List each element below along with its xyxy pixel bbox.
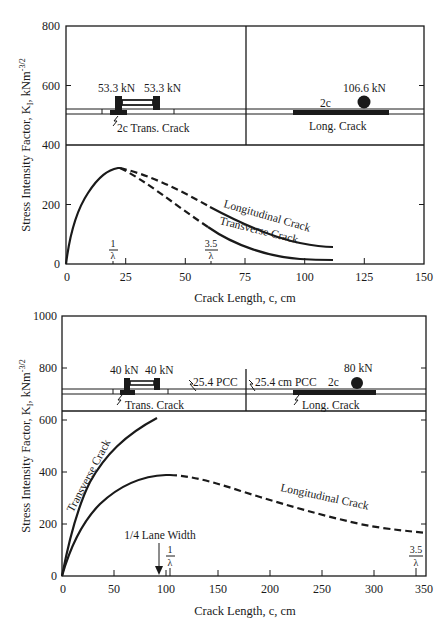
svg-text:λ: λ [209,250,214,261]
top-ytick-600: 600 [42,79,60,93]
bottom-x-axis-label: Crack Length, c, cm [194,604,296,618]
top-longitudinal-dashed [120,168,210,207]
svg-text:1: 1 [168,544,173,555]
bottom-xtick-150: 150 [209,582,227,596]
crack-2c-label: 2c [320,97,331,109]
top-xtick-150: 150 [415,270,433,284]
bottom-x-ticks: 0 50 100 150 200 250 300 350 [60,570,433,596]
top-inset-diagram: 53.3 kN 53.3 kN 2c Trans. Crack 106.6 kN… [66,26,424,145]
bottom-ytick-400: 400 [39,465,57,479]
top-chart: 800 600 400 200 0 0 25 50 75 100 125 150… [18,19,433,305]
top-x-axis-label: Crack Length, c, cm [194,291,296,305]
load-label-left-1: 53.3 kN [98,82,136,94]
bottom-ytick-200: 200 [39,517,57,531]
wheel-left [124,378,130,390]
bottom-inset-diagram: 40 kN 40 kN 25.4 PCC Trans. Crack 25.4 c… [62,362,426,412]
bottom-xtick-100: 100 [157,582,175,596]
bottom-longitudinal-label: Longitudinal Crack [279,481,370,512]
wheel-left [115,96,122,110]
bottom-xtick-300: 300 [365,582,383,596]
load-label-left-1: 40 kN [110,364,139,376]
top-xtick-50: 50 [179,270,191,284]
svg-text:3.5: 3.5 [205,238,218,249]
arrow-icon [117,395,122,405]
top-xtick-25: 25 [120,270,132,284]
load-label-left-2: 40 kN [145,364,174,376]
trans-crack-block [110,110,127,115]
bottom-y-axis-label: Stress Intensity Factor, KI, kNm-3/2 [18,359,35,532]
bottom-curves: Transverse Crack Longitudinal Crack [62,418,426,576]
bottom-xtick-50: 50 [108,582,120,596]
top-x-ticks: 0 25 50 75 100 125 150 [64,258,433,284]
top-xtick-75: 75 [239,270,251,284]
bottom-ytick-0: 0 [51,569,57,583]
single-wheel [351,377,363,389]
svg-text:λ: λ [414,557,419,568]
bottom-xtick-250: 250 [313,582,331,596]
bottom-xtick-350: 350 [415,582,433,596]
top-ytick-0: 0 [54,257,60,271]
axle [130,381,154,385]
load-label-right: 80 kN [344,362,373,374]
bottom-xtick-0: 0 [60,582,66,596]
svg-text:1: 1 [111,238,116,249]
bottom-y-ticks: 1000 800 600 400 200 0 [33,309,426,583]
wheel-right [154,378,160,390]
top-ytick-800: 800 [42,19,60,33]
slab-label-left: 25.4 PCC [193,376,238,388]
crack-2c-label: 2c [328,376,339,388]
top-ytick-200: 200 [42,198,60,212]
bottom-chart: 1000 800 600 400 200 0 0 50 100 150 200 … [18,309,433,618]
long-crack-block [293,390,376,395]
bottom-xtick-200: 200 [261,582,279,596]
load-label-right: 106.6 kN [343,82,387,94]
slab-label-right: 25.4 cm PCC [255,376,317,388]
trans-crack-label: 2c Trans. Crack [117,122,190,134]
lane-width-label: 1/4 Lane Width [124,529,196,541]
top-xtick-125: 125 [355,270,373,284]
arrowhead-icon [155,566,163,575]
wheel-right [153,96,160,110]
axle [122,100,153,105]
bottom-transverse-label: Transverse Crack [64,437,112,514]
top-curves: Longitudinal Crack Transverse Crack [66,168,333,264]
svg-text:3.5: 3.5 [410,544,423,555]
trans-crack-block [120,390,135,395]
top-xtick-100: 100 [296,270,314,284]
top-ytick-400: 400 [42,138,60,152]
top-y-axis-label: Stress Intensity Factor, KI, kNm-3/2 [18,58,35,231]
long-crack-label: Long. Crack [302,399,360,412]
bottom-ytick-800: 800 [39,361,57,375]
long-crack-block [293,110,389,115]
single-wheel [358,96,371,109]
figure: 800 600 400 200 0 0 25 50 75 100 125 150… [0,0,448,625]
bottom-ytick-1000: 1000 [33,309,57,323]
bottom-lane-width-marker: 1/4 Lane Width 1 λ 3.5 λ [124,529,423,576]
trans-crack-label: Trans. Crack [125,399,184,411]
svg-text:λ: λ [168,557,173,568]
long-crack-label: Long. Crack [309,120,367,133]
svg-text:λ: λ [111,250,116,261]
arrow-icon [294,395,299,405]
bottom-ytick-600: 600 [39,413,57,427]
top-xtick-0: 0 [64,270,70,284]
load-label-left-2: 53.3 kN [144,82,182,94]
